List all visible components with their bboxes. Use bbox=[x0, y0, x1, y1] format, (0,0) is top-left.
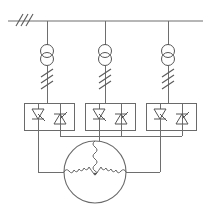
scr-forward-l3 bbox=[154, 109, 167, 130]
current-transformer-l2 bbox=[99, 45, 112, 66]
reverse-scr-common-bus bbox=[60, 130, 182, 136]
motor-star-point bbox=[94, 173, 96, 175]
current-transformer-l1 bbox=[41, 45, 54, 66]
thyristor-module-l1[interactable] bbox=[24, 103, 74, 130]
motor-winding-w bbox=[96, 167, 126, 174]
scr-forward-l1 bbox=[32, 109, 45, 130]
motor-winding-u bbox=[64, 167, 94, 174]
current-transformer-l3 bbox=[162, 45, 175, 66]
earth-hatch-marks bbox=[16, 14, 33, 26]
schematic-canvas: Three-phase thyristor soft-starter motor… bbox=[0, 0, 211, 208]
thyristor-module-l3[interactable] bbox=[146, 103, 196, 130]
electrical-schematic bbox=[0, 0, 211, 208]
thyristor-module-l2[interactable] bbox=[85, 103, 135, 130]
motor-winding-v bbox=[93, 141, 97, 174]
scr-forward-l2 bbox=[93, 109, 106, 130]
three-phase-motor[interactable] bbox=[64, 141, 126, 203]
